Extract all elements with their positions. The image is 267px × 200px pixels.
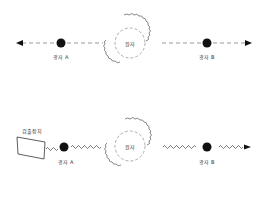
diagram-canvas — [0, 0, 267, 200]
detector-label: 검출장치 — [22, 127, 42, 134]
burst-lower-left — [105, 143, 122, 166]
particle-b-label: 광자 B — [199, 53, 214, 60]
particle-b-dot — [203, 143, 212, 152]
wave-source-b — [163, 146, 196, 149]
particle-a-label: 광자 A — [53, 53, 68, 60]
arrowhead-right-icon — [244, 145, 251, 150]
bottom-panel — [17, 118, 251, 166]
top-panel — [16, 14, 252, 63]
wave-b-right — [219, 146, 243, 149]
particle-a-label: 광자 A — [58, 158, 73, 165]
burst-upper-right — [125, 118, 152, 146]
wave-detector-a — [46, 148, 58, 151]
arrowhead-left-icon — [16, 40, 23, 46]
arrowhead-right-icon — [245, 40, 252, 46]
detector-box — [17, 137, 45, 159]
particle-a-dot — [57, 39, 66, 48]
particle-b-label: 광자 B — [199, 158, 214, 165]
burst-upper-right — [124, 14, 151, 42]
particle-b-dot — [203, 39, 212, 48]
source-label: 원자 — [125, 40, 135, 47]
particle-a-dot — [60, 143, 69, 152]
wave-a-source — [71, 146, 101, 149]
source-label: 원자 — [125, 143, 135, 150]
